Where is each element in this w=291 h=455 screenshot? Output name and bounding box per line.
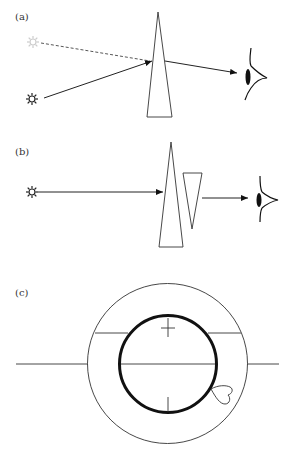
emergent-ray (165, 61, 237, 73)
incident-ray (44, 61, 152, 98)
panel-c: (c) (15, 284, 279, 444)
inverted-prism (183, 173, 202, 229)
panel-a: (a) (15, 11, 267, 117)
optics-figure: (a) (b) (0, 0, 291, 455)
panel-label-b: (b) (15, 146, 29, 157)
eye-icon (245, 48, 267, 100)
prism-b (159, 142, 183, 247)
virtual-ray-dashed (41, 43, 150, 61)
heart-mark-icon (211, 386, 232, 404)
outer-circle (88, 284, 248, 444)
panel-label-a: (a) (15, 11, 29, 22)
light-source-icon (26, 186, 38, 198)
panel-label-c: (c) (15, 287, 29, 298)
prism-a (147, 12, 172, 117)
tick-marks (161, 318, 175, 412)
panel-b: (b) (15, 142, 278, 247)
light-source-icon (26, 93, 38, 105)
eye-icon (257, 176, 279, 222)
apparent-light-source-icon (27, 36, 39, 48)
